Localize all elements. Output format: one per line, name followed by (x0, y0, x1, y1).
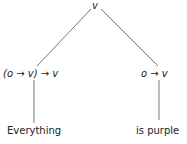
edge-root-right (101, 9, 158, 66)
edge-root-left (37, 9, 91, 66)
root-node: v (92, 0, 98, 12)
right-leaf-is-purple: is purple (136, 125, 179, 137)
right-type-node: o → v (141, 68, 168, 80)
left-type-node: (o → v) → v (3, 68, 58, 80)
left-leaf-everything: Everything (7, 125, 61, 137)
